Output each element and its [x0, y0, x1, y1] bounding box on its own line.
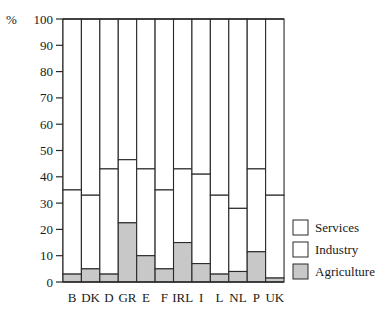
bar-B [63, 19, 81, 282]
bar-segment-industry [266, 195, 284, 278]
bar-D [100, 19, 118, 282]
bar-segment-services [100, 19, 118, 169]
y-tick-label: 70 [40, 90, 53, 105]
bar-segment-agriculture [118, 223, 136, 282]
y-unit-label: % [6, 12, 17, 27]
bar-segment-industry [229, 208, 247, 271]
bar-segment-services [229, 19, 247, 208]
x-category-label: NL [229, 290, 246, 305]
y-tick-label: 30 [40, 196, 53, 211]
bar-segment-services [63, 19, 81, 190]
x-category-label: I [199, 290, 203, 305]
y-axis: 0102030405060708090100% [6, 12, 63, 290]
x-category-label: UK [265, 290, 284, 305]
y-tick-label: 100 [34, 12, 54, 27]
legend-swatch-services [293, 220, 308, 235]
bar-segment-agriculture [210, 274, 228, 282]
bar-segment-industry [210, 195, 228, 274]
x-category-label: B [68, 290, 77, 305]
x-category-label: P [253, 290, 260, 305]
bar-GR [118, 19, 136, 282]
x-category-label: D [104, 290, 113, 305]
x-category-label: DK [81, 290, 100, 305]
legend-swatch-agriculture [293, 264, 308, 279]
y-tick-label: 90 [40, 38, 53, 53]
bar-segment-services [247, 19, 265, 169]
y-tick-label: 50 [40, 143, 53, 158]
bar-segment-services [174, 19, 192, 169]
y-tick-label: 20 [40, 222, 53, 237]
bar-segment-agriculture [155, 269, 173, 282]
bar-segment-agriculture [174, 243, 192, 282]
y-tick-label: 40 [40, 169, 53, 184]
bar-segment-services [81, 19, 99, 195]
bar-segment-industry [174, 169, 192, 243]
bars-group [63, 19, 284, 282]
bar-E [137, 19, 155, 282]
bar-segment-industry [155, 190, 173, 269]
bar-F [155, 19, 173, 282]
bar-segment-agriculture [137, 256, 155, 282]
bar-segment-agriculture [63, 274, 81, 282]
bar-segment-agriculture [192, 264, 210, 282]
bar-segment-industry [137, 169, 155, 256]
y-tick-label: 60 [40, 117, 53, 132]
bar-L [210, 19, 228, 282]
bar-segment-services [210, 19, 228, 195]
stacked-bar-chart: 0102030405060708090100% BDKDGREFIRLILNLP… [0, 0, 392, 317]
y-tick-label: 0 [47, 275, 54, 290]
bar-segment-industry [81, 195, 99, 269]
x-category-label: F [161, 290, 168, 305]
legend-swatch-industry [293, 242, 308, 257]
bar-segment-agriculture [229, 271, 247, 282]
bar-DK [81, 19, 99, 282]
y-tick-label: 80 [40, 64, 53, 79]
bar-segment-agriculture [81, 269, 99, 282]
bar-segment-services [118, 19, 136, 160]
bar-IRL [174, 19, 192, 282]
x-category-label: GR [118, 290, 136, 305]
x-category-label: E [142, 290, 150, 305]
bar-segment-industry [192, 174, 210, 263]
bar-segment-agriculture [247, 252, 265, 282]
bar-segment-industry [63, 190, 81, 274]
legend: ServicesIndustryAgriculture [293, 220, 375, 279]
bar-segment-industry [118, 160, 136, 223]
y-tick-label: 10 [40, 248, 53, 263]
x-category-label: IRL [172, 290, 193, 305]
x-axis-labels: BDKDGREFIRLILNLPUK [68, 290, 285, 305]
bar-segment-industry [100, 169, 118, 274]
bar-P [247, 19, 265, 282]
bar-segment-services [137, 19, 155, 169]
bar-segment-services [192, 19, 210, 174]
bar-NL [229, 19, 247, 282]
bar-segment-services [155, 19, 173, 190]
legend-label-industry: Industry [315, 242, 359, 257]
x-category-label: L [216, 290, 224, 305]
bar-segment-industry [247, 169, 265, 252]
bar-segment-services [266, 19, 284, 195]
bar-UK [266, 19, 284, 282]
legend-label-agriculture: Agriculture [315, 264, 375, 279]
bar-I [192, 19, 210, 282]
bar-segment-agriculture [100, 274, 118, 282]
legend-label-services: Services [315, 220, 359, 235]
